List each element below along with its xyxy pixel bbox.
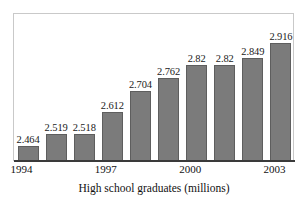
bar xyxy=(18,146,39,161)
bars-layer: 2.4642.5192.5182.6122.7042.7622.822.822.… xyxy=(14,13,295,161)
bar xyxy=(242,58,263,161)
bar-value-label: 2.464 xyxy=(10,134,47,145)
bar xyxy=(130,91,151,161)
x-tick-label-1997: 1997 xyxy=(86,163,126,175)
bar-value-label: 2.704 xyxy=(122,79,159,90)
bar-value-label: 2.518 xyxy=(66,122,103,133)
bar xyxy=(186,65,207,161)
x-axis-tick-labels: 1994199720002003 xyxy=(14,163,295,179)
bar-group: 2.82 xyxy=(183,13,211,161)
bar xyxy=(74,134,95,161)
bar-group: 2.762 xyxy=(155,13,183,161)
bar-value-label: 2.612 xyxy=(94,100,131,111)
bar xyxy=(102,112,123,161)
bar-group: 2.519 xyxy=(42,13,70,161)
x-tick-label-2003: 2003 xyxy=(254,163,294,175)
bar-group: 2.82 xyxy=(211,13,239,161)
x-axis-baseline xyxy=(14,160,295,162)
bar-group: 2.464 xyxy=(14,13,42,161)
x-axis-caption: High school graduates (millions) xyxy=(0,182,308,194)
bar-group: 2.704 xyxy=(126,13,154,161)
x-tick-label-2000: 2000 xyxy=(170,163,210,175)
x-tick-label-1994: 1994 xyxy=(2,163,42,175)
bar-chart-figure: 2.4642.5192.5182.6122.7042.7622.822.822.… xyxy=(0,0,308,204)
bar-value-label: 2.762 xyxy=(150,66,187,77)
bar-group: 2.518 xyxy=(70,13,98,161)
bar-group: 2.916 xyxy=(267,13,295,161)
bar xyxy=(270,43,291,161)
bar xyxy=(214,65,235,161)
bar xyxy=(158,78,179,161)
bar-value-label: 2.849 xyxy=(234,46,271,57)
bar-value-label: 2.916 xyxy=(262,31,299,42)
bar xyxy=(46,134,67,161)
